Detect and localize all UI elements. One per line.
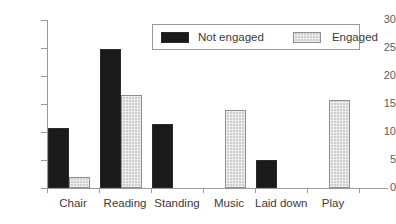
x-axis-label-standing: Standing [151,196,203,210]
bar-chair-not-engaged [48,128,69,188]
x-axis-label-chair: Chair [47,196,99,210]
x-axis-label-play: Play [307,196,359,210]
legend-label-not-engaged: Not engaged [198,31,264,43]
x-axis-label-music: Music [203,196,255,210]
bar-chart: 051015202530 ChairReadingStandingMusicLa… [0,0,396,224]
legend: Not engaged Engaged [152,24,360,50]
bar-play-engaged [329,100,350,188]
legend-label-engaged: Engaged [332,31,378,43]
bar-reading-engaged [121,95,142,188]
bar-music-engaged [225,110,246,188]
bar-laid-down-not-engaged [256,160,277,188]
legend-swatch-not-engaged-icon [161,32,189,43]
bar-standing-not-engaged [152,124,173,188]
bar-chair-engaged [69,177,90,188]
x-axis-label-laid-down: Laid down [255,196,307,210]
legend-swatch-engaged-icon [293,32,321,43]
legend-entry-not-engaged: Not engaged [161,25,264,49]
x-axis-label-reading: Reading [99,196,151,210]
legend-entry-engaged: Engaged [293,25,378,49]
bar-reading-not-engaged [100,49,121,188]
